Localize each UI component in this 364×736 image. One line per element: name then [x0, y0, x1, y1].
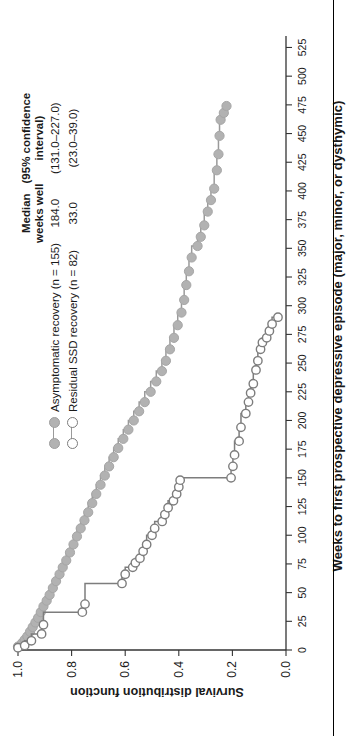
x-tick-label: 350 — [296, 239, 308, 257]
x-tick-label: 475 — [296, 96, 308, 114]
y-tick-label: 0.0 — [279, 661, 293, 678]
data-point — [129, 416, 138, 425]
data-point — [176, 476, 184, 484]
legend-label-residual: Residual SSD recovery (n = 82) — [64, 243, 82, 412]
legend-ci-residual: (23.0–39.0) — [64, 93, 82, 184]
x-tick-label: 425 — [296, 153, 308, 171]
x-tick-label: 50 — [296, 587, 308, 599]
y-tick-label: 0.8 — [65, 661, 79, 678]
data-point — [88, 498, 97, 507]
data-point — [157, 367, 166, 376]
data-point — [165, 345, 174, 354]
x-tick-label: 450 — [296, 125, 308, 143]
data-point — [246, 389, 254, 397]
data-point — [214, 150, 223, 159]
data-point — [274, 313, 282, 321]
data-point — [81, 600, 89, 608]
x-tick-label: 0 — [296, 647, 308, 653]
caption-rule — [333, 0, 334, 736]
data-point — [180, 295, 189, 304]
x-tick-label: 400 — [296, 182, 308, 200]
data-point — [140, 398, 149, 407]
legend-col-median-line1: Median — [20, 183, 33, 242]
data-point — [268, 320, 276, 328]
filled-circle-icon — [48, 416, 60, 450]
x-tick-label: 200 — [296, 412, 308, 430]
legend-header-spacer-2 — [20, 243, 46, 412]
data-point — [222, 101, 231, 110]
data-point — [96, 480, 105, 489]
data-point — [200, 221, 209, 230]
x-tick-label: 525 — [296, 39, 308, 57]
data-point — [146, 387, 155, 396]
data-point — [242, 409, 250, 417]
x-tick-label: 75 — [296, 558, 308, 570]
x-tick-label: 175 — [296, 440, 308, 458]
data-point — [84, 508, 93, 517]
x-tick-label: 125 — [296, 498, 308, 516]
data-point — [237, 423, 245, 431]
legend-block: Median weeks well (95% confidence interv… — [20, 20, 82, 450]
data-point — [173, 321, 182, 330]
y-tick-label: 0.6 — [118, 661, 132, 678]
data-point — [27, 637, 35, 645]
data-point — [254, 357, 262, 365]
data-point — [78, 608, 86, 616]
legend-header-row: Median weeks well (95% confidence interv… — [20, 93, 46, 450]
data-point — [229, 462, 237, 470]
y-tick-label: 0.2 — [225, 661, 239, 678]
x-tick-label: 25 — [296, 615, 308, 627]
legend-marker-residual — [64, 412, 82, 450]
y-tick-label: 0.4 — [172, 661, 186, 678]
rotated-figure-frame: Median weeks well (95% confidence interv… — [0, 0, 364, 736]
legend-header-spacer — [20, 412, 46, 450]
legend-ci-asymptomatic: (131.0–227.0) — [46, 93, 64, 184]
data-point — [235, 437, 243, 445]
data-point — [249, 380, 257, 388]
figure-body: Median weeks well (95% confidence interv… — [0, 0, 364, 736]
x-tick-label: 325 — [296, 268, 308, 286]
x-tick-label: 500 — [296, 67, 308, 85]
data-point — [161, 356, 170, 365]
x-tick-label: 250 — [296, 354, 308, 372]
x-tick-label: 150 — [296, 469, 308, 487]
legend-marker-asymptomatic — [46, 412, 64, 450]
legend-table: Median weeks well (95% confidence interv… — [20, 93, 82, 450]
legend-median-asymptomatic: 184.0 — [46, 183, 64, 242]
y-axis-title: Survival distribution function — [27, 685, 287, 699]
figure-page: Median weeks well (95% confidence interv… — [0, 0, 364, 736]
legend-row: Residual SSD recovery (n = 82) 33.0 (23.… — [64, 93, 82, 450]
legend-col-median-header: Median weeks well — [20, 183, 46, 242]
data-point — [169, 333, 178, 342]
data-point — [105, 462, 114, 471]
data-point — [135, 407, 144, 416]
data-point — [203, 207, 212, 216]
x-tick-label: 100 — [296, 526, 308, 544]
data-point — [252, 366, 260, 374]
legend-median-residual: 33.0 — [64, 183, 82, 242]
x-tick-label: 300 — [296, 297, 308, 315]
data-point — [37, 630, 45, 638]
data-point — [227, 474, 235, 482]
data-point — [109, 453, 118, 462]
data-point — [193, 241, 202, 250]
data-point — [206, 196, 215, 205]
data-point — [244, 398, 252, 406]
data-point — [118, 579, 126, 587]
legend-col-median-line2: weeks well — [33, 183, 46, 242]
data-point — [124, 425, 133, 434]
legend-col-ci-line2: interval) — [33, 93, 46, 184]
x-tick-label: 225 — [296, 383, 308, 401]
y-tick-label: 1.0 — [11, 661, 25, 678]
data-point — [184, 267, 193, 276]
legend-col-ci-line1: (95% confidence — [20, 93, 33, 184]
data-point — [215, 131, 224, 140]
data-point — [39, 621, 47, 629]
data-point — [187, 253, 196, 262]
data-point — [182, 280, 191, 289]
legend-row: Asymptomatic recovery (n = 155) 184.0 (1… — [46, 93, 64, 450]
data-point — [230, 451, 238, 459]
data-point — [114, 443, 123, 452]
data-point — [152, 377, 161, 386]
data-point — [212, 166, 221, 175]
